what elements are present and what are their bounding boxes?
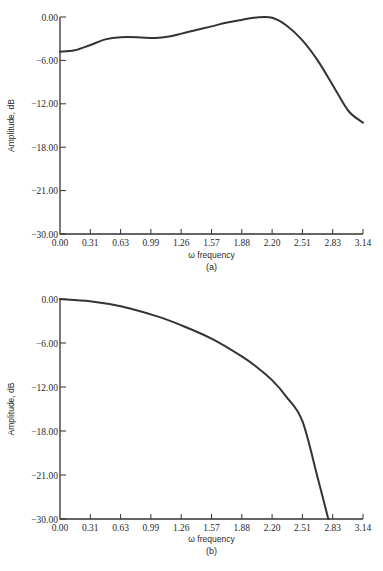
x-tick-label: 0.31 xyxy=(82,523,99,533)
x-tick-label: 1.57 xyxy=(203,523,220,533)
y-tick-label: −18.00 xyxy=(31,427,58,437)
panel-caption: (a) xyxy=(206,262,217,272)
figure: 0.00−6.00−12.00−18.00−21.00−30.000.000.3… xyxy=(0,0,383,571)
x-tick-label: 0.00 xyxy=(52,523,69,533)
x-tick-label: 0.00 xyxy=(52,238,69,248)
x-tick-label: 0.31 xyxy=(82,238,99,248)
panel-caption: (b) xyxy=(206,546,217,556)
x-tick-label: 0.63 xyxy=(112,523,129,533)
x-tick-label: 3.14 xyxy=(355,523,372,533)
x-axis-title: ω frequency xyxy=(188,534,235,544)
y-tick-label: −21.00 xyxy=(31,186,58,196)
axis-lines xyxy=(60,17,363,234)
y-tick-label: −6.00 xyxy=(36,56,58,66)
x-tick-label: 1.88 xyxy=(233,238,250,248)
x-tick-label: 0.99 xyxy=(143,238,160,248)
chart-panel-a: 0.00−6.00−12.00−18.00−21.00−30.000.000.3… xyxy=(6,13,372,273)
x-tick-label: 2.51 xyxy=(294,238,311,248)
amplitude-curve xyxy=(60,17,363,123)
x-tick-label: 1.26 xyxy=(173,238,190,248)
y-axis-title: Amplitude, dB xyxy=(6,99,16,152)
x-tick-label: 2.83 xyxy=(324,238,341,248)
x-tick-label: 3.14 xyxy=(355,238,372,248)
x-tick-label: 2.20 xyxy=(264,523,281,533)
y-tick-label: 0.00 xyxy=(41,295,58,305)
axis-lines xyxy=(60,299,363,519)
x-tick-label: 2.20 xyxy=(264,238,281,248)
y-tick-label: 0.00 xyxy=(41,13,58,23)
y-tick-label: −18.00 xyxy=(31,143,58,153)
x-tick-label: 0.99 xyxy=(143,523,160,533)
x-tick-label: 2.83 xyxy=(324,523,341,533)
x-axis-title: ω frequency xyxy=(188,250,235,260)
amplitude-curve xyxy=(60,299,328,519)
chart-panel-b: 0.00−6.00−12.00−18.00−21.00−30.000.000.3… xyxy=(6,295,372,557)
x-tick-label: 2.51 xyxy=(294,523,311,533)
x-tick-label: 1.57 xyxy=(203,238,220,248)
y-tick-label: −21.00 xyxy=(31,471,58,481)
y-tick-label: −12.00 xyxy=(31,99,58,109)
y-tick-label: −6.00 xyxy=(36,339,58,349)
y-tick-label: −12.00 xyxy=(31,383,58,393)
y-axis-title: Amplitude, dB xyxy=(6,382,16,435)
x-tick-label: 1.88 xyxy=(233,523,250,533)
x-tick-label: 1.26 xyxy=(173,523,190,533)
x-tick-label: 0.63 xyxy=(112,238,129,248)
